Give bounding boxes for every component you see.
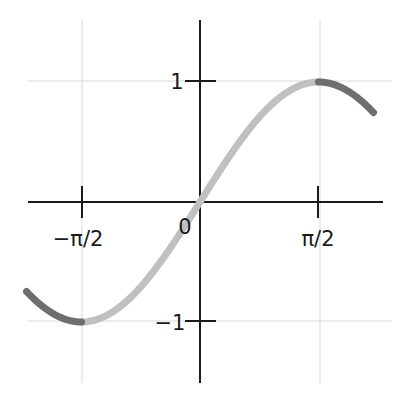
x-tick-label-neg-pi-half: −π/2 [53,227,104,251]
curve-segment-2 [319,82,374,113]
origin-label: 0 [178,215,191,239]
curve-segment-1 [26,291,81,322]
x-tick-label-pi-half: π/2 [301,227,334,251]
y-tick-label-1: 1 [170,70,183,94]
y-tick-label-neg1: −1 [155,311,186,335]
axes [28,20,383,383]
sine-chart: −π/2 π/2 1 −1 0 [0,0,409,402]
